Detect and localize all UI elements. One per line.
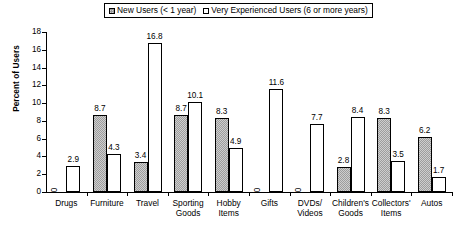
category-label: Gifts <box>249 198 290 208</box>
bar-value-label: 3.5 <box>392 150 403 159</box>
bar-value-label: 6.2 <box>419 126 430 135</box>
x-tick-mark <box>87 192 88 196</box>
bar-slot: 6.2 <box>418 32 432 192</box>
bar-value-label: 3.4 <box>135 151 146 160</box>
bar-group: 3.416.8 <box>134 32 162 192</box>
y-tick-label: 4 <box>36 152 41 160</box>
bar <box>310 124 324 192</box>
bar-slot: 2.8 <box>337 32 351 192</box>
bar-value-label: 1.7 <box>433 166 444 175</box>
legend-label: New Users (< 1 year) <box>117 6 196 15</box>
y-tick-label: 2 <box>36 170 41 178</box>
bar-value-label: 4.9 <box>230 137 241 146</box>
y-tick-mark <box>42 156 46 157</box>
y-axis-title: Percent of Users <box>12 19 21 139</box>
y-tick-label: 12 <box>32 81 41 89</box>
bar <box>107 154 121 192</box>
bar-slot: 4.3 <box>107 32 121 192</box>
bar <box>377 118 391 192</box>
bar-group: 6.21.7 <box>418 32 446 192</box>
bar-value-label: 10.1 <box>187 91 203 100</box>
bar <box>66 166 80 192</box>
x-tick-mark <box>330 192 331 196</box>
bar-slot: 8.7 <box>174 32 188 192</box>
bar-value-label: 7.7 <box>311 113 322 122</box>
y-tick-mark <box>42 192 46 193</box>
bar-group: 02.9 <box>52 32 80 192</box>
y-axis-line <box>46 32 47 192</box>
bar <box>215 118 229 192</box>
y-tick-mark <box>42 50 46 51</box>
bar-group: 8.710.1 <box>174 32 202 192</box>
bar-group: 8.33.5 <box>377 32 405 192</box>
y-tick-label: 0 <box>36 188 41 196</box>
category-label: DVDs/ Videos <box>290 198 331 218</box>
x-tick-mark <box>208 192 209 196</box>
bar-slot: 8.7 <box>93 32 107 192</box>
category-label: Travel <box>127 198 168 208</box>
plot-area: 024681012141618 02.98.74.33.416.88.710.1… <box>46 32 452 192</box>
bar <box>351 117 365 192</box>
x-tick-mark-end <box>452 192 453 196</box>
bar <box>432 177 446 192</box>
y-tick-label: 16 <box>32 46 41 54</box>
bar <box>134 162 148 192</box>
legend-swatch-shaded-icon <box>109 8 115 14</box>
bar-slot: 0 <box>255 32 269 192</box>
y-tick-label: 6 <box>36 135 41 143</box>
category-label: Hobby Items <box>208 198 249 218</box>
x-tick-mark <box>411 192 412 196</box>
y-tick-label: 8 <box>36 117 41 125</box>
bar <box>391 161 405 192</box>
bar-slot: 3.5 <box>391 32 405 192</box>
bar-group: 8.74.3 <box>93 32 121 192</box>
y-tick-mark <box>42 103 46 104</box>
y-tick-mark <box>42 121 46 122</box>
bar-value-label: 2.8 <box>338 156 349 165</box>
category-label: Collectors' Items <box>371 198 412 218</box>
bar-value-label: 8.3 <box>216 107 227 116</box>
bar-slot: 8.3 <box>215 32 229 192</box>
bar-slot: 3.4 <box>134 32 148 192</box>
bar-group: 011.6 <box>255 32 283 192</box>
category-label: Autos <box>411 198 452 208</box>
legend-swatch-open-icon <box>203 8 209 14</box>
x-tick-mark <box>127 192 128 196</box>
bar-value-label: 8.7 <box>94 104 105 113</box>
bar-group: 2.88.4 <box>337 32 365 192</box>
bar-value-label: 2.9 <box>68 155 79 164</box>
category-label: Drugs <box>46 198 87 208</box>
bar-slot: 4.9 <box>229 32 243 192</box>
category-label: Furniture <box>87 198 128 208</box>
bar-value-label: 0 <box>50 188 59 193</box>
bar-group: 8.34.9 <box>215 32 243 192</box>
x-tick-mark <box>168 192 169 196</box>
bar-group: 07.7 <box>296 32 324 192</box>
bar-slot: 16.8 <box>148 32 162 192</box>
bar <box>148 43 162 192</box>
bar-value-label: 8.4 <box>352 106 363 115</box>
bar <box>418 137 432 192</box>
bar-value-label: 0 <box>294 188 303 193</box>
bar-slot: 11.6 <box>269 32 283 192</box>
bar <box>229 148 243 192</box>
bar-slot: 1.7 <box>432 32 446 192</box>
x-tick-mark <box>290 192 291 196</box>
chart-legend: New Users (< 1 year)Very Experienced Use… <box>104 3 373 18</box>
bar-value-label: 16.8 <box>147 32 163 41</box>
y-tick-mark <box>42 85 46 86</box>
y-tick-mark <box>42 139 46 140</box>
category-label: Children's Goods <box>330 198 371 218</box>
x-tick-mark <box>371 192 372 196</box>
legend-entry: Very Experienced Users (6 or more years) <box>203 6 367 15</box>
bar <box>337 167 351 192</box>
bar-chart: New Users (< 1 year)Very Experienced Use… <box>0 0 462 231</box>
bar-value-label: 11.6 <box>269 78 284 87</box>
bar-slot: 8.4 <box>351 32 365 192</box>
legend-label: Very Experienced Users (6 or more years) <box>211 6 367 15</box>
legend-entry: New Users (< 1 year) <box>109 6 196 15</box>
bar-slot: 0 <box>52 32 66 192</box>
bar-slot: 2.9 <box>66 32 80 192</box>
bar-slot: 10.1 <box>188 32 202 192</box>
bar <box>269 89 283 192</box>
